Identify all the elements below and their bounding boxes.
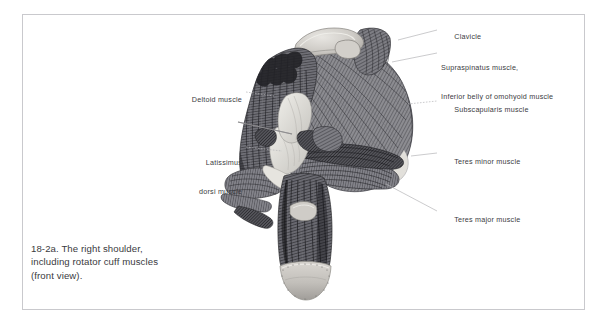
label-latissimus: Latissimus dorsi muscle <box>160 139 242 216</box>
label-teres-minor-line1: Teres minor muscle <box>454 157 520 166</box>
figure-caption: 18-2a. The right shoulder, including rot… <box>31 242 211 282</box>
label-latissimus-line2: dorsi muscle <box>160 187 242 197</box>
label-supraspinatus-line1: Supraspinatus muscle, <box>441 63 553 73</box>
caption-line-1: 18-2a. The right shoulder, <box>31 242 211 255</box>
label-subscapularis: Subscapularis muscle <box>441 95 529 124</box>
label-subscapularis-line1: Subscapularis muscle <box>454 105 528 114</box>
label-deltoid-line1: Deltoid muscle <box>192 95 242 104</box>
label-teres-major-line1: Teres major muscle <box>454 215 520 224</box>
anatomy-figure-root: Clavicle Supraspinatus muscle, Inferior … <box>0 0 604 327</box>
caption-line-3: (front view). <box>31 269 211 282</box>
label-clavicle-line1: Clavicle <box>454 32 481 41</box>
label-teres-minor: Teres minor muscle <box>441 147 520 176</box>
label-teres-major: Teres major muscle <box>441 205 520 234</box>
label-deltoid: Deltoid muscle <box>160 85 242 114</box>
caption-line-2: including rotator cuff muscles <box>31 255 211 268</box>
label-latissimus-line1: Latissimus <box>160 158 242 168</box>
